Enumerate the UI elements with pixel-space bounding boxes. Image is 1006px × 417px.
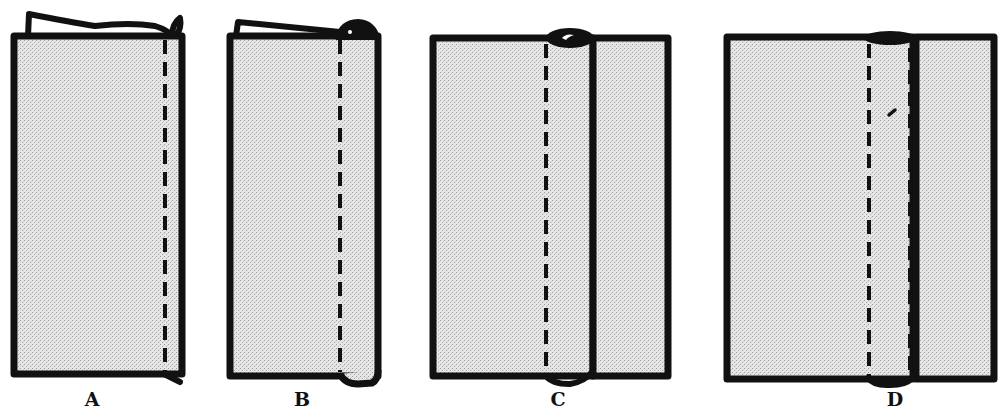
panel-a bbox=[14, 14, 182, 382]
fabric-left bbox=[727, 37, 913, 379]
panel-b bbox=[230, 21, 378, 384]
fabric-right bbox=[916, 37, 994, 379]
panel-label-d: D bbox=[887, 388, 903, 410]
panel-c bbox=[433, 28, 668, 384]
panel-label-b: B bbox=[294, 388, 310, 410]
rolled-seam-top bbox=[546, 28, 594, 48]
felled-seam-top bbox=[864, 31, 916, 45]
panel-label-c: C bbox=[550, 388, 565, 410]
panel-label-a: A bbox=[85, 388, 100, 410]
rolled-fold bbox=[338, 21, 378, 38]
fabric-body bbox=[14, 36, 182, 374]
fabric-body bbox=[230, 36, 378, 376]
fabric-right bbox=[593, 38, 668, 376]
seam-steps-diagram bbox=[0, 0, 1006, 417]
panel-d bbox=[727, 31, 994, 385]
fabric-left bbox=[433, 38, 593, 376]
